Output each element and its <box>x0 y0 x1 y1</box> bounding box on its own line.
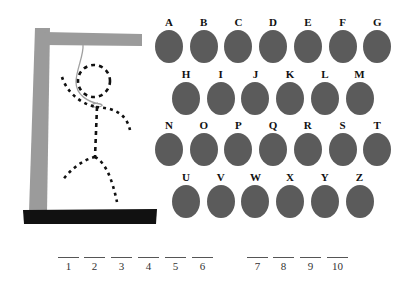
letter-label: O <box>189 119 219 131</box>
letter-button-u[interactable]: U <box>171 171 201 219</box>
blank-position-number: 7 <box>247 260 268 272</box>
letter-button-f[interactable]: F <box>328 16 358 64</box>
letter-button-x[interactable]: X <box>275 171 305 219</box>
letter-button-e[interactable]: E <box>293 16 323 64</box>
letter-button-i[interactable]: I <box>206 68 236 116</box>
letter-disc-icon[interactable] <box>207 185 235 218</box>
letter-button-g[interactable]: G <box>362 16 392 64</box>
letter-disc-icon[interactable] <box>276 185 304 218</box>
letter-blank-9: 9 <box>300 257 321 277</box>
gallows-base <box>23 209 157 224</box>
letter-button-a[interactable]: A <box>154 16 184 64</box>
letter-label: X <box>275 171 305 183</box>
blank-underline <box>165 257 186 258</box>
letter-disc-icon[interactable] <box>259 133 287 166</box>
letter-label: Z <box>345 171 375 183</box>
stickman-right-leg <box>95 157 117 202</box>
letter-button-m[interactable]: M <box>345 68 375 116</box>
letter-button-h[interactable]: H <box>171 68 201 116</box>
letter-disc-icon[interactable] <box>172 82 200 115</box>
letter-button-s[interactable]: S <box>328 119 358 167</box>
stickman-right-arm <box>96 107 130 130</box>
letter-button-z[interactable]: Z <box>345 171 375 219</box>
letter-button-p[interactable]: P <box>223 119 253 167</box>
letter-blank-1: 1 <box>58 257 79 277</box>
letter-label: H <box>171 68 201 80</box>
blank-position-number: 6 <box>192 260 213 272</box>
blank-position-number: 1 <box>58 260 79 272</box>
letter-label: W <box>240 171 270 183</box>
blank-underline <box>192 257 213 258</box>
blank-underline <box>300 257 321 258</box>
letter-button-y[interactable]: Y <box>310 171 340 219</box>
blank-underline <box>58 257 79 258</box>
letter-disc-icon[interactable] <box>172 185 200 218</box>
letter-label: T <box>362 119 392 131</box>
letter-button-t[interactable]: T <box>362 119 392 167</box>
blank-underline <box>111 257 132 258</box>
letter-disc-icon[interactable] <box>155 133 183 166</box>
letter-button-k[interactable]: K <box>275 68 305 116</box>
letter-disc-icon[interactable] <box>329 30 357 63</box>
letter-blank-10: 10 <box>327 257 348 277</box>
letter-disc-icon[interactable] <box>155 30 183 63</box>
letter-label: F <box>328 16 358 28</box>
letter-label: Y <box>310 171 340 183</box>
stickman-head <box>78 65 110 97</box>
letter-label: E <box>293 16 323 28</box>
letter-disc-icon[interactable] <box>329 133 357 166</box>
letter-button-q[interactable]: Q <box>258 119 288 167</box>
letter-button-d[interactable]: D <box>258 16 288 64</box>
letter-disc-icon[interactable] <box>311 82 339 115</box>
letter-disc-icon[interactable] <box>241 82 269 115</box>
letter-button-n[interactable]: N <box>154 119 184 167</box>
letter-button-w[interactable]: W <box>240 171 270 219</box>
blank-position-number: 5 <box>165 260 186 272</box>
stickman-left-leg <box>62 157 95 181</box>
letter-label: J <box>240 68 270 80</box>
blank-underline <box>84 257 105 258</box>
letter-disc-icon[interactable] <box>190 133 218 166</box>
letter-disc-icon[interactable] <box>224 30 252 63</box>
letter-button-j[interactable]: J <box>240 68 270 116</box>
letter-button-v[interactable]: V <box>206 171 236 219</box>
letter-blank-6: 6 <box>192 257 213 277</box>
letter-disc-icon[interactable] <box>259 30 287 63</box>
letter-disc-icon[interactable] <box>363 30 391 63</box>
letter-disc-icon[interactable] <box>346 185 374 218</box>
letter-label: K <box>275 68 305 80</box>
letter-label: D <box>258 16 288 28</box>
letter-label: N <box>154 119 184 131</box>
gallows-post <box>29 28 50 212</box>
letter-disc-icon[interactable] <box>363 133 391 166</box>
letter-label: Q <box>258 119 288 131</box>
letter-disc-icon[interactable] <box>241 185 269 218</box>
letter-disc-icon[interactable] <box>207 82 235 115</box>
letter-button-b[interactable]: B <box>189 16 219 64</box>
letter-disc-icon[interactable] <box>224 133 252 166</box>
letter-disc-icon[interactable] <box>276 82 304 115</box>
stickman-body <box>95 107 97 157</box>
letter-label: R <box>293 119 323 131</box>
blank-position-number: 8 <box>273 260 294 272</box>
letter-label: I <box>206 68 236 80</box>
letter-disc-icon[interactable] <box>294 133 322 166</box>
blank-position-number: 10 <box>327 260 348 272</box>
letter-blank-7: 7 <box>247 257 268 277</box>
letter-disc-icon[interactable] <box>190 30 218 63</box>
blank-position-number: 2 <box>84 260 105 272</box>
letter-disc-icon[interactable] <box>311 185 339 218</box>
letter-button-r[interactable]: R <box>293 119 323 167</box>
letter-disc-icon[interactable] <box>294 30 322 63</box>
blank-position-number: 9 <box>300 260 321 272</box>
gallows-drawing <box>0 0 160 230</box>
letter-button-c[interactable]: C <box>223 16 253 64</box>
letter-button-l[interactable]: L <box>310 68 340 116</box>
letter-button-o[interactable]: O <box>189 119 219 167</box>
letter-label: L <box>310 68 340 80</box>
blank-position-number: 4 <box>138 260 159 272</box>
letter-disc-icon[interactable] <box>346 82 374 115</box>
letter-label: C <box>223 16 253 28</box>
letter-blank-5: 5 <box>165 257 186 277</box>
blank-underline <box>138 257 159 258</box>
